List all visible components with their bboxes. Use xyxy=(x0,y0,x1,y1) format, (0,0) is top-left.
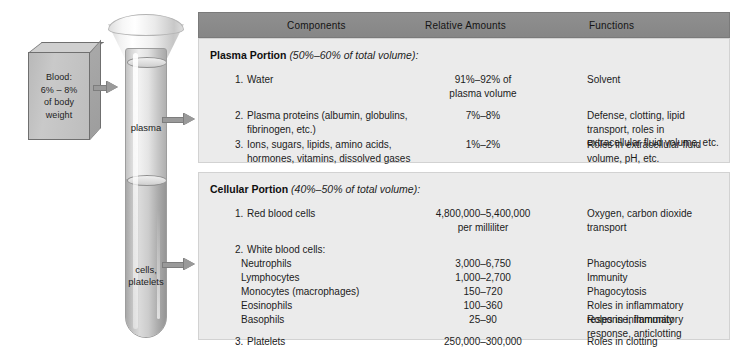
blood-composition-table: Components Relative Amounts Functions Pl… xyxy=(198,0,734,359)
row-number: 1. xyxy=(235,207,243,221)
row-component-label: Red blood cells xyxy=(247,207,315,221)
row-amount: 25–90 xyxy=(413,313,553,327)
row-function: Solvent xyxy=(587,73,729,87)
row-number: 3. xyxy=(235,138,243,152)
tube-rim xyxy=(108,14,184,36)
row-function: Immunity xyxy=(587,271,729,285)
row-amount: 1%–2% xyxy=(413,138,553,152)
row-component-label: Water xyxy=(247,73,273,87)
blood-composition-diagram: Blood: 6% – 8% of body weight plasma cel… xyxy=(0,0,200,359)
row-amount: 1,000–2,700 xyxy=(413,271,553,285)
blood-label-line-4: weight xyxy=(46,109,73,122)
column-header-functions: Functions xyxy=(589,13,634,39)
row-function: Phagocytosis xyxy=(587,285,729,299)
row-component-label: Ions, sugars, lipids, amino acids, hormo… xyxy=(247,138,410,165)
section-title-cellular-italic: (40%–50% of total volume): xyxy=(291,183,420,195)
section-title-plasma-italic: (50%–60% of total volume): xyxy=(289,49,418,61)
row-number: 3. xyxy=(235,335,243,349)
section-title-plasma: Plasma Portion (50%–60% of total volume)… xyxy=(210,49,418,61)
row-amount: 4,800,000–5,400,000 per milliliter xyxy=(413,207,553,234)
section-title-plasma-bold: Plasma Portion xyxy=(210,49,286,61)
tube-body xyxy=(125,48,167,338)
row-amount: 150–720 xyxy=(413,285,553,299)
section-title-cellular: Cellular Portion (40%–50% of total volum… xyxy=(210,183,420,195)
plasma-layer xyxy=(126,61,166,179)
cells-layer xyxy=(126,179,166,337)
row-function: Roles in extracellular fluid volume, pH,… xyxy=(587,138,729,165)
row-amount: 91%–92% of plasma volume xyxy=(413,73,553,100)
row-function: Roles in clotting xyxy=(587,335,729,349)
row-amount: 3,000–6,750 xyxy=(413,257,553,271)
arrow-head xyxy=(184,258,195,270)
row-amount: 100–360 xyxy=(413,299,553,313)
column-header-components: Components xyxy=(287,13,346,39)
blood-label-line-3: of body xyxy=(44,96,74,109)
arrow-shaft xyxy=(162,262,185,268)
section-cellular-portion: Cellular Portion (40%–50% of total volum… xyxy=(198,172,730,340)
column-header-relative-amounts: Relative Amounts xyxy=(425,13,506,39)
row-number: 1. xyxy=(235,73,243,87)
row-number: 2. xyxy=(235,109,243,123)
row-number: 2. xyxy=(235,243,243,257)
row-function: Phagocytosis xyxy=(587,257,729,271)
row-component-label: Plasma proteins (albumin, globulins, fib… xyxy=(247,109,408,136)
arrow-shaft xyxy=(162,117,185,123)
test-tube: plasma cells, platelets xyxy=(106,14,186,344)
row-amount: 250,000–300,000 xyxy=(413,335,553,349)
row-component-label: Platelets xyxy=(247,335,285,349)
blood-label-line-1: Blood: xyxy=(46,71,72,84)
row-amount: 7%–8% xyxy=(413,109,553,123)
arrow-plasma-to-table-icon xyxy=(162,113,196,126)
arrow-head xyxy=(184,113,195,125)
section-plasma-portion: Plasma Portion (50%–60% of total volume)… xyxy=(198,38,730,163)
row-function: Oxygen, carbon dioxide transport xyxy=(587,207,729,234)
row-component-label: White blood cells: xyxy=(247,243,325,257)
blood-source-label: Blood: 6% – 8% of body weight xyxy=(28,52,90,140)
blood-label-line-2: 6% – 8% xyxy=(41,84,78,97)
arrow-cells-to-table-icon xyxy=(162,258,196,271)
table-header-bar: Components Relative Amounts Functions xyxy=(198,12,730,38)
section-title-cellular-bold: Cellular Portion xyxy=(210,183,288,195)
